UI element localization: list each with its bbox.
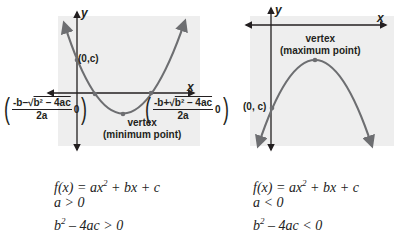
left-y-intercept-label: (0,c) <box>78 53 99 64</box>
left-y-axis-label: y <box>81 6 88 20</box>
root-numerator: -b–√b² – 4ac <box>12 97 72 110</box>
right-y-intercept-label: (0, c) <box>243 101 266 112</box>
root-fraction: -b–√b² – 4ac 2a <box>12 97 72 122</box>
right-x-axis-label: x <box>377 11 384 25</box>
open-paren: ( <box>4 94 10 124</box>
close-paren: ) <box>81 94 87 124</box>
radicand: b² – 4ac <box>175 97 212 108</box>
right-a-condition: a < 0 <box>253 193 359 212</box>
root-denominator: 2a <box>177 110 188 122</box>
function-rest: + bx + c <box>307 180 359 195</box>
left-root-point-1 <box>93 92 98 97</box>
disc-base: b <box>253 218 260 233</box>
radicand: b² – 4ac <box>34 97 71 108</box>
right-root-label: ( -b+√b² – 4ac 2a 0 ) <box>143 94 231 124</box>
right-vertex-point <box>313 58 318 63</box>
right-discriminant-condition: b2 – 4ac < 0 <box>253 212 359 231</box>
disc-base: b <box>54 218 61 233</box>
root-fraction: -b+√b² – 4ac 2a <box>153 97 213 122</box>
numerator-prefix: -b–√ <box>13 97 34 108</box>
right-y-axis-label: y <box>275 3 282 17</box>
root-numerator: -b+√b² – 4ac <box>153 97 213 110</box>
root-y-value: 0 <box>74 104 80 115</box>
numerator-prefix: -b+√ <box>154 97 175 108</box>
left-vertex-point <box>121 112 126 117</box>
left-a-condition: a > 0 <box>54 193 160 212</box>
right-vertex-label: vertex (maximum point) <box>280 33 361 57</box>
function-rest: + bx + c <box>108 180 160 195</box>
root-denominator: 2a <box>36 110 47 122</box>
left-root-label: ( -b–√b² – 4ac 2a 0 ) <box>2 94 89 124</box>
left-conditions: f(x) = ax2 + bx + c a > 0 b2 – 4ac > 0 <box>54 174 160 231</box>
disc-rest: – 4ac > 0 <box>66 218 124 233</box>
left-function-equation: f(x) = ax2 + bx + c <box>54 174 160 193</box>
right-conditions: f(x) = ax2 + bx + c a < 0 b2 – 4ac < 0 <box>253 174 359 231</box>
left-x-axis-label: x <box>187 80 194 94</box>
disc-rest: – 4ac < 0 <box>265 218 323 233</box>
left-discriminant-condition: b2 – 4ac > 0 <box>54 212 160 231</box>
vertex-label-line2: (minimum point) <box>103 129 181 141</box>
right-function-equation: f(x) = ax2 + bx + c <box>253 174 359 193</box>
vertex-label-line1: vertex <box>280 33 361 45</box>
close-paren: ) <box>223 94 229 124</box>
right-y-intercept-point <box>270 106 275 111</box>
root-y-value: 0 <box>215 104 221 115</box>
open-paren: ( <box>145 94 151 124</box>
vertex-label-line2: (maximum point) <box>280 45 361 57</box>
